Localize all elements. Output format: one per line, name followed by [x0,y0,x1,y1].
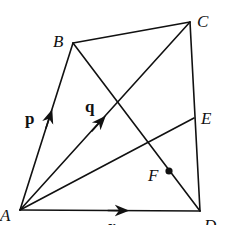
label-d: D [203,216,217,225]
label-b: B [53,32,64,51]
label-a: A [0,206,11,225]
label-e: E [200,109,212,128]
diagonal-ac [20,22,190,210]
segment-ae [20,118,194,210]
label-vector-p: p [25,109,34,128]
label-f: F [147,166,159,185]
label-vector-q: q [85,97,95,116]
side-bc [73,22,190,43]
diagonal-bd [73,43,200,211]
side-cd [190,22,200,211]
point-f-dot [165,167,172,174]
label-c: C [197,12,209,31]
arrow-q-icon [92,121,101,131]
arrow-p-icon [46,116,50,128]
diagram-canvas: A B C D E F p q r [0,0,231,225]
label-vector-r: r [108,217,116,225]
vector-diagram: A B C D E F p q r [0,0,231,225]
